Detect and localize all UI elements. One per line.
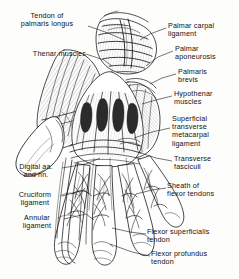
label-palmar-carpal-ligament: Palmar carpal ligament xyxy=(168,22,239,38)
label-digital-aa-and-nn: Digital aa. and nn. xyxy=(8,163,64,179)
finger-middle xyxy=(92,166,117,265)
anatomy-figure: Tendon of palmaris longus Thenar muscles… xyxy=(0,0,239,279)
label-sheath-of-flexor-tendons: Sheath of flexor tendons xyxy=(167,182,239,198)
label-annular-ligament: Annular ligament xyxy=(8,214,66,230)
label-transverse-fasciculi: Transverse fasciculi xyxy=(174,155,238,171)
label-tendon-of-palmaris-longus: Tendon of palmaris longus xyxy=(4,12,90,28)
label-thenar-muscles: Thenar muscles xyxy=(2,50,86,58)
label-palmar-aponeurosis: Palmar aponeurosis xyxy=(175,45,239,61)
label-palmaris-brevis: Palmaris brevis xyxy=(178,68,238,84)
label-superficial-transverse-metacarpal-ligament: Superficial transverse metacarpal ligame… xyxy=(172,115,238,148)
label-flexor-superficialis-tendon: Flexor superficialis tendon xyxy=(147,228,239,244)
label-flexor-profundus-tendon: Flexor profundus tendon xyxy=(151,250,239,266)
label-cruciform-ligament: Cruciform ligament xyxy=(6,191,64,207)
label-hypothenar-muscles: Hypothenar muscles xyxy=(174,90,238,106)
